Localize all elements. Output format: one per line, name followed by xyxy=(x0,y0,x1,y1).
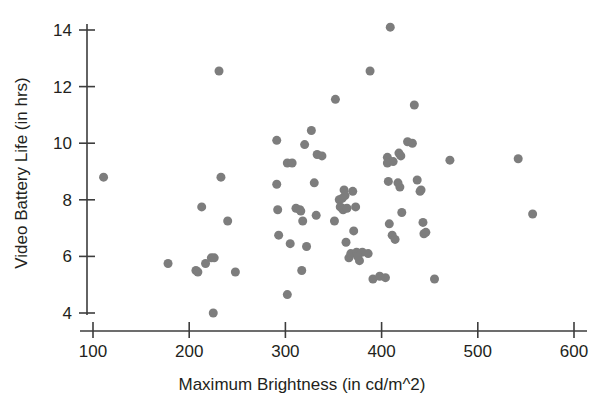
data-point xyxy=(331,95,340,104)
x-tick-label: 200 xyxy=(175,342,203,361)
data-point xyxy=(297,266,306,275)
data-point xyxy=(528,209,537,218)
data-point xyxy=(514,154,523,163)
data-point xyxy=(338,194,347,203)
data-point xyxy=(231,267,240,276)
data-point xyxy=(445,156,454,165)
data-point xyxy=(215,67,224,76)
data-point xyxy=(353,252,362,261)
data-point xyxy=(272,136,281,145)
data-point xyxy=(99,173,108,182)
data-point xyxy=(164,259,173,268)
x-tick-label: 100 xyxy=(79,342,107,361)
data-point xyxy=(223,217,232,226)
data-point xyxy=(416,187,425,196)
data-point xyxy=(342,204,351,213)
data-point xyxy=(430,275,439,284)
data-point xyxy=(391,235,400,244)
data-point xyxy=(330,217,339,226)
data-point xyxy=(272,180,281,189)
data-point xyxy=(310,178,319,187)
data-point xyxy=(393,178,402,187)
data-point xyxy=(389,157,398,166)
data-point xyxy=(385,219,394,228)
y-tick-label: 14 xyxy=(53,21,72,40)
scatter-plot-figure: 468101214 100200300400500600 Maximum Bri… xyxy=(0,0,605,401)
data-point xyxy=(418,218,427,227)
data-point xyxy=(342,238,351,247)
data-point xyxy=(364,249,373,258)
data-point xyxy=(296,207,305,216)
y-tick-label: 4 xyxy=(63,304,72,323)
data-point xyxy=(288,159,297,168)
data-point xyxy=(366,67,375,76)
data-point xyxy=(307,126,316,135)
y-tick-label: 6 xyxy=(63,247,72,266)
x-tick-label: 600 xyxy=(560,342,588,361)
y-axis: 468101214 xyxy=(53,21,95,323)
data-point xyxy=(302,242,311,251)
data-point xyxy=(413,175,422,184)
data-point xyxy=(386,23,395,32)
data-point xyxy=(421,228,430,237)
y-axis-title: Video Battery Life (in hrs) xyxy=(12,77,31,269)
x-tick-label: 500 xyxy=(464,342,492,361)
data-point xyxy=(349,226,358,235)
data-point xyxy=(396,151,405,160)
data-point xyxy=(286,239,295,248)
data-point xyxy=(397,208,406,217)
data-point xyxy=(384,177,393,186)
x-axis-title: Maximum Brightness (in cd/m^2) xyxy=(179,375,426,394)
x-tick-label: 400 xyxy=(367,342,395,361)
y-tick-label: 12 xyxy=(53,78,72,97)
data-point xyxy=(274,231,283,240)
data-point xyxy=(351,202,360,211)
data-point xyxy=(273,205,282,214)
data-point xyxy=(283,290,292,299)
data-point xyxy=(408,139,417,148)
data-point xyxy=(216,173,225,182)
data-point xyxy=(348,187,357,196)
data-point xyxy=(317,151,326,160)
data-point xyxy=(209,309,218,318)
x-tick-label: 300 xyxy=(271,342,299,361)
data-point xyxy=(298,217,307,226)
data-point xyxy=(300,140,309,149)
data-point-series xyxy=(99,23,537,318)
data-point xyxy=(210,253,219,262)
data-point xyxy=(312,211,321,220)
x-axis: 100200300400500600 xyxy=(79,322,588,361)
data-point xyxy=(193,267,202,276)
data-point xyxy=(197,202,206,211)
y-tick-label: 8 xyxy=(63,191,72,210)
data-point xyxy=(410,101,419,110)
data-point xyxy=(381,273,390,282)
scatter-plot-canvas: 468101214 100200300400500600 Maximum Bri… xyxy=(0,0,605,401)
y-tick-label: 10 xyxy=(53,134,72,153)
